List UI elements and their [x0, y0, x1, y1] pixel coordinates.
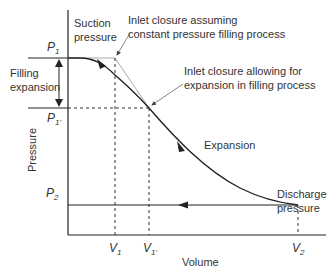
- constant-pressure-guide: [68, 58, 149, 108]
- v1-label: V1: [109, 241, 121, 257]
- pv-diagram: Suction pressure Inlet closure assuming …: [0, 0, 336, 272]
- inlet-exp-label-2: expansion in filling process: [184, 79, 316, 91]
- p2-label: P2: [46, 186, 59, 202]
- suction-label-1: Suction: [74, 17, 111, 29]
- expansion-label: Expansion: [204, 139, 255, 151]
- pointer-expansion: [152, 84, 183, 105]
- inlet-const-label-1: Inlet closure assuming: [128, 14, 237, 26]
- filling-label-1: Filling: [10, 67, 39, 79]
- curve-arrow-1: [97, 59, 106, 69]
- p1-label: P1: [47, 40, 59, 56]
- y-axis-label: Pressure: [26, 128, 38, 172]
- v1prime-label: V1': [143, 241, 157, 257]
- x-axis-label: Volume: [182, 256, 219, 268]
- discharge-label-2: pressure: [277, 202, 320, 214]
- discharge-arrow: [178, 202, 188, 209]
- inlet-exp-label-1: Inlet closure allowing for: [184, 65, 302, 77]
- p1prime-label: P1': [47, 111, 61, 127]
- inlet-const-label-2: constant pressure filling process: [128, 28, 286, 40]
- filling-label-2: expansion: [10, 81, 60, 93]
- discharge-label-1: Discharge: [277, 188, 327, 200]
- v2-label: V2: [292, 241, 305, 257]
- suction-label-2: pressure: [74, 31, 117, 43]
